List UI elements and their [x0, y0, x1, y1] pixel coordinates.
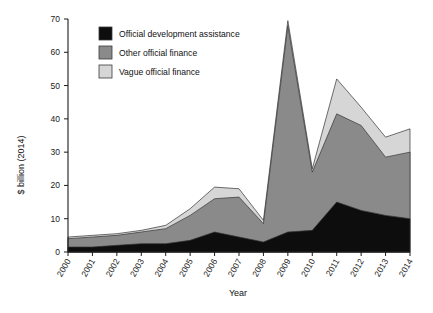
x-axis-title: Year — [229, 288, 247, 298]
y-tick-label: 70 — [51, 14, 61, 24]
y-tick-label: 20 — [51, 180, 61, 190]
x-axis: 2000200120022003200420052006200720082009… — [55, 252, 415, 278]
x-tick-label: 2005 — [177, 257, 195, 279]
legend-label: Vague official finance — [119, 67, 200, 77]
y-axis-title: $ billion (2014) — [16, 135, 26, 194]
stacked-area-chart: 010203040506070 200020012002200320042005… — [0, 0, 433, 313]
x-tick-label: 2009 — [274, 257, 292, 279]
x-tick-label: 2004 — [152, 257, 170, 279]
y-tick-label: 30 — [51, 147, 61, 157]
x-tick-label: 2003 — [128, 257, 146, 279]
legend-label: Official development assistance — [119, 29, 240, 39]
x-tick-label: 2008 — [250, 257, 268, 279]
y-axis: 010203040506070 — [51, 14, 68, 257]
legend-swatch — [99, 27, 112, 40]
legend-swatch — [99, 46, 112, 59]
x-tick-label: 2011 — [324, 257, 342, 278]
legend-label: Other official finance — [119, 48, 197, 58]
chart-container: 010203040506070 200020012002200320042005… — [0, 0, 433, 313]
x-tick-label: 2014 — [397, 257, 415, 279]
y-tick-label: 10 — [51, 214, 61, 224]
x-tick-label: 2010 — [299, 257, 317, 279]
x-tick-label: 2006 — [201, 257, 219, 279]
chart-legend: Official development assistanceOther off… — [99, 27, 240, 78]
y-tick-label: 40 — [51, 114, 61, 124]
legend-swatch — [99, 65, 112, 78]
x-tick-label: 2000 — [55, 257, 73, 279]
x-tick-label: 2012 — [348, 257, 366, 279]
y-tick-label: 50 — [51, 81, 61, 91]
y-tick-label: 60 — [51, 47, 61, 57]
x-tick-label: 2013 — [372, 257, 390, 279]
x-tick-label: 2002 — [103, 257, 121, 279]
y-tick-label: 0 — [55, 247, 60, 257]
x-tick-label: 2007 — [226, 257, 244, 279]
x-tick-label: 2001 — [79, 257, 97, 279]
